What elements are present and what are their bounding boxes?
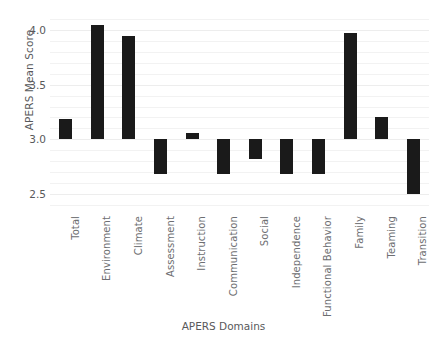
bar-communication — [217, 139, 230, 174]
x-tick-label: Teaming — [386, 216, 397, 259]
gridline — [50, 117, 429, 118]
gridline — [50, 41, 429, 42]
bar-teaming — [375, 117, 388, 139]
gridline — [50, 161, 429, 162]
x-tick-label: Assessment — [165, 216, 176, 277]
bar-functional-behavior — [312, 139, 325, 174]
x-tick-label: Climate — [133, 216, 144, 255]
gridline — [50, 74, 429, 75]
plot-area — [50, 14, 429, 210]
gridline — [50, 128, 429, 129]
x-tick-label: Total — [70, 216, 81, 240]
gridline — [50, 194, 429, 195]
gridline — [50, 96, 429, 97]
gridline — [50, 52, 429, 53]
gridline — [50, 85, 429, 86]
y-tick-label: 3.0 — [16, 133, 46, 145]
gridline — [50, 183, 429, 184]
gridline — [50, 63, 429, 64]
gridline — [50, 205, 429, 206]
x-tick-label: Communication — [228, 216, 239, 296]
x-tick-label: Functional Behavior — [322, 216, 333, 317]
x-axis-title: APERS Domains — [0, 320, 447, 332]
x-tick-label: Instruction — [196, 216, 207, 271]
x-tick-label: Family — [354, 216, 365, 249]
y-tick-label: 2.5 — [16, 188, 46, 200]
bar-independence — [280, 139, 293, 174]
bar-instruction — [186, 133, 199, 140]
y-tick-label: 3.5 — [16, 79, 46, 91]
x-tick-label: Social — [259, 216, 270, 246]
y-tick-label: 4.0 — [16, 24, 46, 36]
bar-transition — [407, 139, 420, 193]
bar-assessment — [154, 139, 167, 174]
bar-family — [344, 33, 357, 140]
bar-environment — [91, 25, 104, 139]
gridline — [50, 172, 429, 173]
bar-social — [249, 139, 262, 159]
apers-bar-chart: APERS Mean Score 2.53.03.54.0 TotalEnvir… — [0, 0, 447, 342]
gridline — [50, 150, 429, 151]
gridline — [50, 139, 429, 140]
bar-climate — [122, 36, 135, 139]
gridline — [50, 30, 429, 31]
gridline — [50, 19, 429, 20]
bar-total — [59, 119, 72, 140]
x-tick-label: Transition — [417, 216, 428, 265]
x-tick-label: Independence — [291, 216, 302, 288]
gridline — [50, 107, 429, 108]
x-tick-label: Environment — [101, 216, 112, 281]
